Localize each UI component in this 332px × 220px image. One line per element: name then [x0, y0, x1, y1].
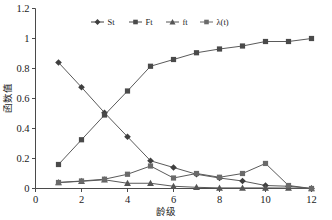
data-point-marker	[148, 163, 153, 168]
x-tick-label: 2	[79, 194, 84, 205]
data-point-marker	[240, 171, 245, 176]
legend-label: ft	[183, 17, 189, 27]
legend-label: Ft	[146, 17, 154, 27]
data-point-marker	[102, 177, 107, 182]
x-axis-title: 龄级	[156, 206, 176, 217]
legend-label: St	[108, 17, 116, 27]
y-tick-label: 0	[24, 183, 29, 194]
data-point-marker	[204, 20, 209, 25]
x-tick-label: 4	[125, 194, 131, 205]
data-point-marker	[56, 162, 61, 167]
data-point-marker	[79, 178, 84, 183]
y-tick-label: 1.2	[16, 3, 29, 14]
y-tick-label: 0.6	[16, 93, 29, 104]
data-point-marker	[309, 186, 314, 191]
y-axis-title: 函数值	[2, 83, 13, 113]
y-tick-label: 0.4	[16, 123, 30, 134]
data-point-marker	[263, 39, 268, 44]
data-point-marker	[133, 20, 138, 25]
data-point-marker	[217, 175, 222, 180]
y-tick-label: 1	[24, 33, 29, 44]
data-point-marker	[171, 175, 176, 180]
chart-container: 00.20.40.60.811.2 024681012 StFtftλ(t) 龄…	[0, 0, 332, 220]
line-chart: 00.20.40.60.811.2 024681012 StFtftλ(t) 龄…	[0, 0, 332, 220]
y-tick-label: 0.2	[16, 153, 29, 164]
data-point-marker	[125, 88, 130, 93]
data-point-marker	[125, 172, 130, 177]
data-point-marker	[56, 180, 61, 185]
x-tick-label: 0	[33, 194, 38, 205]
data-point-marker	[102, 112, 107, 117]
data-point-marker	[240, 43, 245, 48]
chart-background	[0, 0, 332, 220]
legend-label: λ(t)	[217, 17, 229, 27]
data-point-marker	[171, 57, 176, 62]
data-point-marker	[217, 46, 222, 51]
data-point-marker	[286, 183, 291, 188]
y-tick-label: 0.8	[16, 63, 29, 74]
data-point-marker	[286, 39, 291, 44]
data-point-marker	[309, 36, 314, 41]
data-point-marker	[263, 161, 268, 166]
x-tick-label: 10	[260, 194, 271, 205]
data-point-marker	[148, 64, 153, 69]
data-point-marker	[194, 50, 199, 55]
x-tick-label: 12	[306, 194, 317, 205]
x-tick-label: 8	[217, 194, 222, 205]
x-tick-label: 6	[171, 194, 176, 205]
data-point-marker	[79, 137, 84, 142]
data-point-marker	[194, 171, 199, 176]
